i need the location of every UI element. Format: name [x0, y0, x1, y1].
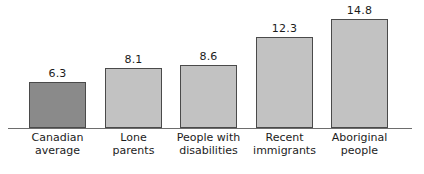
bar	[105, 68, 162, 128]
category-label-line: disabilities	[177, 144, 240, 157]
category-axis-line	[8, 128, 412, 129]
category-label-line: parents	[113, 144, 155, 157]
bar-value-label: 8.1	[124, 53, 142, 66]
bar	[180, 65, 237, 128]
bar	[256, 37, 313, 128]
bar-value-label: 14.8	[347, 4, 372, 17]
category-label: Canadianaverage	[32, 131, 84, 157]
bar-group: 12.3	[256, 0, 313, 128]
bar-value-label: 6.3	[48, 67, 66, 80]
plot-area: 6.3Canadianaverage8.1Loneparents8.6Peopl…	[0, 0, 424, 174]
bar-value-label: 8.6	[199, 50, 217, 63]
category-label: Aboriginalpeople	[332, 131, 388, 157]
bar-chart: 6.3Canadianaverage8.1Loneparents8.6Peopl…	[0, 0, 424, 174]
category-label-line: Lone	[113, 131, 155, 144]
category-label-line: Canadian	[32, 131, 84, 144]
category-label: People withdisabilities	[177, 131, 240, 157]
category-label-line: Recent	[253, 131, 316, 144]
category-label-line: Aboriginal	[332, 131, 388, 144]
category-label: Recentimmigrants	[253, 131, 316, 157]
bar-group: 14.8	[331, 0, 388, 128]
bar-value-label: 12.3	[272, 22, 297, 35]
category-label: Loneparents	[113, 131, 155, 157]
bar-group: 8.1	[105, 0, 162, 128]
bar	[331, 19, 388, 128]
bar	[29, 82, 86, 128]
category-label-line: People with	[177, 131, 240, 144]
bar-group: 6.3	[29, 0, 86, 128]
category-label-line: people	[332, 144, 388, 157]
category-label-line: immigrants	[253, 144, 316, 157]
bar-group: 8.6	[180, 0, 237, 128]
category-label-line: average	[32, 144, 84, 157]
